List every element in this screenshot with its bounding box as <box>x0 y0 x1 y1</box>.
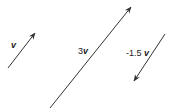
vector-3v-var: v <box>83 46 88 56</box>
vector-3v-arrow <box>50 7 131 108</box>
vector-neg1.5v-var: v <box>144 48 149 58</box>
vector-v-label: v <box>11 40 16 50</box>
vector-3v-label: 3v <box>78 46 88 56</box>
vector-neg1.5v-coef: -1.5 <box>126 48 144 58</box>
vector-v-arrow <box>8 33 35 68</box>
vector-neg1.5v-label: -1.5 v <box>126 48 149 58</box>
vector-v-var: v <box>11 40 16 50</box>
